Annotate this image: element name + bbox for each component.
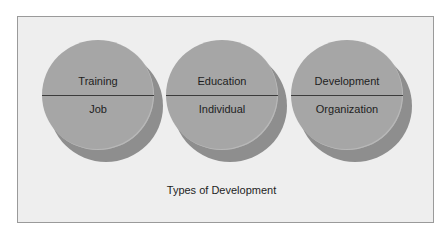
disc-training-job: Training Job <box>42 40 170 168</box>
disc-face: Education Individual <box>166 40 278 150</box>
disc-development-organization: Development Organization <box>291 40 419 168</box>
disc-bottom-label: Organization <box>291 103 403 116</box>
disc-bottom-label: Individual <box>166 103 278 116</box>
disc-face: Development Organization <box>291 40 403 150</box>
disc-education-individual: Education Individual <box>166 40 294 168</box>
disc-bottom-label: Job <box>42 103 154 116</box>
disc-top-label: Education <box>166 75 278 88</box>
disc-face: Training Job <box>42 40 154 150</box>
disc-divider <box>42 95 154 96</box>
disc-top-label: Development <box>291 75 403 88</box>
disc-divider <box>166 95 278 96</box>
disc-top-label: Training <box>42 75 154 88</box>
diagram-caption: Types of Development <box>0 184 443 196</box>
disc-divider <box>291 95 403 96</box>
